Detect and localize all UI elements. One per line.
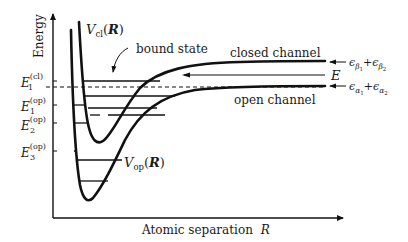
- y-axis-label: Energy: [32, 14, 46, 58]
- closed-channel-curve: [79, 22, 325, 142]
- bound-state-label: bound state: [136, 42, 208, 56]
- bound-state-pointer-arrow: [113, 48, 128, 72]
- open-asymptote-label: ϵα1+ϵα2: [349, 80, 388, 96]
- closed-channel-label: closed channel: [230, 46, 321, 60]
- closed-curve-label: Vcl(R): [86, 22, 124, 39]
- level-label-E2-op: E(op)2: [20, 115, 46, 135]
- closed-asymptote-label: ϵβ1+ϵβ2: [349, 56, 386, 72]
- level-label-E1-cl: E(cl)1: [20, 72, 43, 92]
- level-label-E3-op: E(op)3: [20, 142, 46, 162]
- x-axis-label: Atomic separation R: [141, 223, 270, 237]
- energy-label: E: [330, 68, 341, 83]
- energy-arrow-icon: [182, 73, 190, 78]
- open-channel-label: open channel: [234, 93, 316, 107]
- potential-energy-diagram: Energy Atomic separation R E(cl)1 E(op)1…: [0, 0, 408, 242]
- open-curve-label: Vop(R): [124, 155, 165, 172]
- level-label-E1-op: E(op)1: [20, 96, 46, 116]
